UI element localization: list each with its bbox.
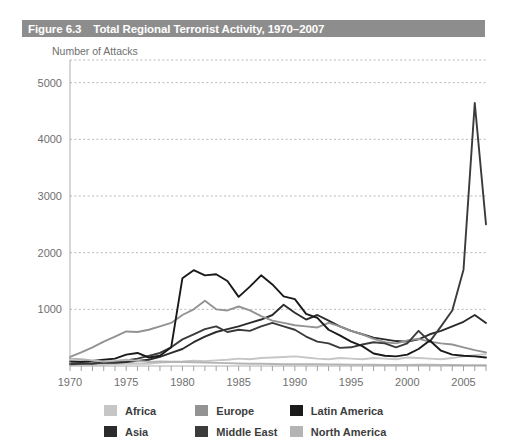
legend-item-latin-america[interactable]: Latin America — [290, 405, 404, 417]
series-lines-group — [70, 103, 486, 365]
gridlines-group — [70, 60, 486, 309]
x-tick-label: 1970 — [58, 376, 82, 388]
y-tick-labels-group: 10002000300040005000 — [38, 77, 62, 316]
chart-legend: Africa Europe Latin America Asia Middle … — [104, 400, 404, 442]
legend-row: Africa Europe Latin America — [104, 400, 404, 421]
legend-label-north-america: North America — [311, 426, 386, 438]
axis-lines-group — [70, 60, 486, 366]
x-tick-label: 2000 — [395, 376, 419, 388]
legend-label-middle-east: Middle East — [216, 426, 277, 438]
x-tick-labels-group: 19701975198019851990199520002005 — [58, 376, 476, 388]
series-line-latin-america — [70, 270, 486, 362]
series-line-asia — [70, 305, 486, 364]
x-tick-label: 1990 — [283, 376, 307, 388]
legend-swatch-north-america — [290, 426, 303, 437]
x-tick-label: 1995 — [339, 376, 363, 388]
x-tick-label: 2005 — [451, 376, 475, 388]
legend-swatch-asia — [104, 426, 117, 437]
legend-swatch-latin-america — [290, 405, 303, 416]
figure-container: Figure 6.3 Total Regional Terrorist Acti… — [0, 0, 507, 446]
y-tick-label: 3000 — [38, 190, 62, 202]
legend-item-middle-east[interactable]: Middle East — [195, 426, 290, 438]
x-tick-marks-group — [70, 366, 486, 371]
legend-row: Asia Middle East North America — [104, 421, 404, 442]
legend-item-africa[interactable]: Africa — [104, 405, 195, 417]
x-tick-label: 1985 — [226, 376, 250, 388]
y-tick-label: 2000 — [38, 247, 62, 259]
y-tick-label: 4000 — [38, 133, 62, 145]
legend-label-europe: Europe — [216, 405, 254, 417]
line-chart-svg: 10002000300040005000 1970197519801985199… — [0, 0, 507, 400]
legend-label-asia: Asia — [125, 426, 148, 438]
x-tick-label: 1980 — [170, 376, 194, 388]
x-tick-label: 1975 — [114, 376, 138, 388]
legend-label-latin-america: Latin America — [311, 405, 383, 417]
legend-item-north-america[interactable]: North America — [290, 426, 404, 438]
legend-item-asia[interactable]: Asia — [104, 426, 195, 438]
y-tick-label: 5000 — [38, 77, 62, 89]
legend-swatch-africa — [104, 405, 117, 416]
legend-swatch-middle-east — [195, 426, 208, 437]
plot-area: 10002000300040005000 1970197519801985199… — [0, 0, 507, 400]
series-line-middle-east — [70, 103, 486, 364]
legend-swatch-europe — [195, 405, 208, 416]
y-tick-label: 1000 — [38, 303, 62, 315]
legend-label-africa: Africa — [125, 405, 156, 417]
legend-item-europe[interactable]: Europe — [195, 405, 290, 417]
